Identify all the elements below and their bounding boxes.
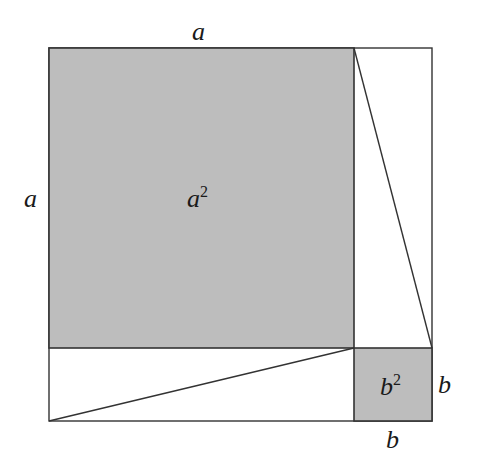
label-right-b: b xyxy=(438,370,451,399)
label-left-a: a xyxy=(24,184,37,213)
b-base: b xyxy=(380,372,393,401)
a-base: a xyxy=(187,184,200,213)
label-bottom-b: b xyxy=(386,425,399,454)
b-exponent: 2 xyxy=(393,371,401,388)
a-exponent: 2 xyxy=(200,183,208,200)
pythagorean-diagram: a a a2 b2 b b xyxy=(0,0,477,472)
label-top-a: a xyxy=(192,17,205,46)
